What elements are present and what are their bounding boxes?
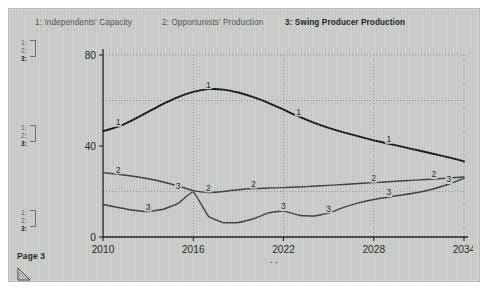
bracket-label-3: 3: [21,55,27,63]
chart-canvas: 0408020102016202220282034Years1111222223… [55,35,473,263]
bracket-icon [30,210,36,227]
margin-bracket-group-1: 1: 2: 3: [21,39,47,69]
bracket-label-2: 2: [21,132,27,140]
x-tick-label: 2016 [182,244,205,255]
series-inline-label-3: 3 [386,187,391,197]
bracket-label-1: 1: [21,39,27,47]
chart-legend: 1: Independents' Capacity 2: Opportunist… [9,18,479,34]
margin-bracket-group-3: 1: 2: 3: [21,209,47,239]
series-inline-label-1: 1 [386,134,391,144]
bracket-label-3: 3: [21,140,27,148]
bracket-icon [30,125,36,142]
series-inline-label-2: 2 [116,165,121,175]
series-inline-label-2: 2 [432,169,437,179]
y-tick-label: 40 [85,141,97,152]
margin-bracket-column: 1: 2: 3: 1: 2: 3: 1: 2: 3: [15,9,55,281]
screenshot-root: 1: Independents' Capacity 2: Opportunist… [0,0,490,297]
bracket-label-1: 1: [21,209,27,217]
series-inline-label-2: 2 [206,183,211,193]
x-tick-label: 2010 [92,244,115,255]
series-inline-label-2: 2 [371,173,376,183]
resize-corner-icon[interactable] [17,267,32,281]
x-axis-title: Years [270,260,297,263]
series-inline-label-1: 1 [296,107,301,117]
bracket-icon [30,40,36,57]
bracket-label-2: 2: [21,47,27,55]
x-tick-label: 2022 [272,244,295,255]
margin-bracket-group-2: 1: 2: 3: [21,124,47,154]
series-inline-label-1: 1 [206,80,211,90]
bracket-label-2: 2: [21,217,27,225]
series-inline-label-3: 3 [176,181,181,191]
bracket-label-3: 3: [21,225,27,233]
bracket-label-1: 1: [21,124,27,132]
series-inline-label-3: 3 [281,201,286,211]
series-inline-label-2: 2 [251,179,256,189]
series-line-1 [103,89,464,161]
x-tick-label: 2034 [453,244,473,255]
series-inline-label-3: 3 [326,204,331,214]
legend-item-3[interactable]: 3: Swing Producer Production [285,18,405,27]
x-tick-label: 2028 [362,244,385,255]
scanned-page-panel: 1: Independents' Capacity 2: Opportunist… [8,8,480,282]
page-label: Page 3 [17,251,45,261]
y-tick-label: 80 [85,50,97,61]
line-chart: 0408020102016202220282034Years1111222223… [55,35,473,263]
series-inline-label-3: 3 [447,174,452,184]
legend-item-2[interactable]: 2: Opportunists' Production [162,18,263,27]
y-tick-label: 0 [90,232,96,243]
series-inline-label-1: 1 [116,117,121,127]
series-inline-label-3: 3 [146,202,151,212]
